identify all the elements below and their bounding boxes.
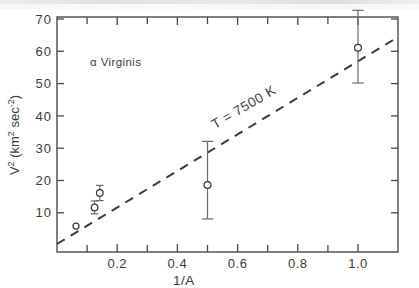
y-axis-label-close: ) (7, 95, 22, 99)
x-axis-label: 1/A (173, 273, 195, 288)
error-bar (202, 141, 213, 219)
x-tick-labels: 0.2 0.4 0.6 0.8 1.0 (107, 256, 367, 271)
y-tick-label: 30 (36, 141, 52, 156)
y-axis-ticks-right (391, 19, 398, 213)
y-tick-label: 10 (36, 205, 52, 220)
y-axis-label-v: V (7, 166, 22, 175)
fit-line-dashed (57, 37, 398, 244)
data-point (355, 44, 362, 51)
y-tick-label: 70 (36, 12, 52, 27)
y-tick-label: 40 (36, 109, 52, 124)
y-tick-label: 50 (36, 76, 52, 91)
axes-border (57, 17, 398, 252)
x-tick-label: 0.8 (288, 256, 308, 271)
y-axis-label: V2 (km2 sec-2) (6, 95, 22, 175)
data-point (73, 223, 79, 229)
y-axis-label-text: V2 (km2 sec-2) (6, 95, 22, 175)
y-axis-label-km: (km (7, 136, 22, 161)
x-axis-ticks (87, 244, 358, 252)
y-axis-ticks (57, 19, 64, 213)
x-tick-label: 0.4 (168, 256, 188, 271)
annotation-temperature: T = 7500 K (209, 82, 279, 132)
y-tick-labels: 70 60 50 40 30 20 10 (36, 12, 52, 221)
annotation-star-name: α Virginis (90, 56, 141, 68)
x-tick-label: 0.2 (107, 256, 127, 271)
data-markers (73, 44, 361, 229)
data-point (204, 182, 211, 189)
plot-frame (57, 17, 398, 252)
y-tick-label: 20 (36, 173, 52, 188)
data-point (91, 204, 98, 211)
y-tick-label: 60 (36, 44, 52, 59)
chart-figure: 70 60 50 40 30 20 10 0.2 0.4 0.6 0.8 1.0… (0, 0, 419, 288)
annotation-temperature-text: T = 7500 K (209, 82, 279, 132)
y-axis-label-sec: sec (7, 107, 22, 131)
x-axis-ticks-top (87, 17, 358, 25)
x-tick-label: 0.6 (228, 256, 248, 271)
y-axis-label-sec-sup: -2 (6, 99, 16, 107)
x-tick-label: 1.0 (348, 256, 368, 271)
data-point (97, 190, 104, 197)
